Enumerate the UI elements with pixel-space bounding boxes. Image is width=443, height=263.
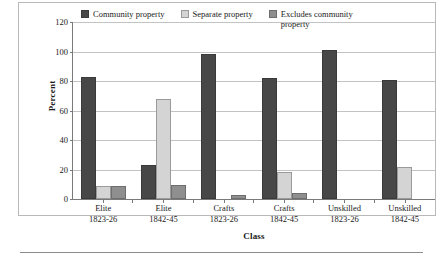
x-tick-label: Crafts1823-26 [194, 203, 254, 225]
bar[interactable] [171, 185, 186, 199]
y-tick-mark-0 [70, 199, 73, 200]
bar[interactable] [81, 77, 96, 199]
bar[interactable] [111, 186, 126, 199]
legend-item[interactable]: Separate property [181, 9, 253, 19]
bar-group [133, 22, 193, 199]
plot-area: 020406080100120 [73, 22, 435, 199]
bar-groups [73, 22, 435, 199]
bar[interactable] [156, 99, 171, 199]
x-tick-label-period: 1842-45 [254, 214, 314, 225]
x-tick-label-class: Unskilled [375, 203, 435, 214]
x-tick-label: Unskilled1842-45 [375, 203, 435, 225]
y-tick-label-80: 80 [60, 76, 69, 86]
bar-group-bars [73, 22, 133, 199]
legend-label: Separate property [193, 9, 253, 19]
bar[interactable] [322, 50, 337, 199]
bar-group-bars [133, 22, 193, 199]
x-axis-title: Class [73, 231, 435, 241]
x-tick-label-class: Crafts [194, 203, 254, 214]
x-tick-label-class: Unskilled [314, 203, 374, 214]
x-tick-label-period: 1842-45 [133, 214, 193, 225]
x-tick-label: Crafts1842-45 [254, 203, 314, 225]
legend-item[interactable]: Community property [81, 9, 165, 19]
bar-group [375, 22, 435, 199]
y-axis-title: Percent [47, 56, 57, 136]
y-tick-label-0: 0 [64, 194, 68, 204]
bar-group-bars [314, 22, 374, 199]
bar[interactable] [277, 172, 292, 199]
figure: Percent 020406080100120 Elite1823-26Elit… [0, 0, 443, 263]
legend-swatch-icon [181, 10, 189, 18]
bar-group [254, 22, 314, 199]
x-tick-label-class: Crafts [254, 203, 314, 214]
bar-group [194, 22, 254, 199]
bar[interactable] [141, 165, 156, 199]
bar-group [314, 22, 374, 199]
y-tick-label-120: 120 [55, 17, 68, 27]
x-tick-label-period: 1823-26 [194, 214, 254, 225]
legend-label: Excludes community property [281, 9, 359, 29]
bar-group-bars [375, 22, 435, 199]
bar[interactable] [96, 186, 111, 199]
chart-frame: Percent 020406080100120 Elite1823-26Elit… [18, 2, 436, 216]
y-tick-label-40: 40 [60, 135, 69, 145]
bottom-divider-rule [20, 252, 423, 253]
y-tick-label-100: 100 [55, 47, 68, 57]
legend-swatch-icon [269, 10, 277, 18]
bar[interactable] [262, 78, 277, 199]
chart-legend: Community propertySeparate propertyExclu… [81, 9, 359, 29]
bar[interactable] [292, 193, 307, 199]
bar[interactable] [201, 54, 216, 199]
bar[interactable] [231, 195, 246, 199]
legend-label: Community property [93, 9, 165, 19]
legend-swatch-icon [81, 10, 89, 18]
bar-group-bars [254, 22, 314, 199]
bar-group [73, 22, 133, 199]
x-tick-label-class: Elite [133, 203, 193, 214]
x-tick-labels: Elite1823-26Elite1842-45Crafts1823-26Cra… [73, 203, 435, 225]
x-tick-label: Elite1842-45 [133, 203, 193, 225]
bar[interactable] [397, 167, 412, 199]
x-tick-label-period: 1842-45 [375, 214, 435, 225]
x-tick-label: Unskilled1823-26 [314, 203, 374, 225]
x-tick-label-class: Elite [73, 203, 133, 214]
bar-group-bars [194, 22, 254, 199]
x-tick-label-period: 1823-26 [73, 214, 133, 225]
plot-inner: 020406080100120 [73, 22, 435, 199]
legend-item[interactable]: Excludes community property [269, 9, 359, 29]
x-tick-label: Elite1823-26 [73, 203, 133, 225]
y-tick-label-60: 60 [60, 106, 69, 116]
gridline-0 [73, 199, 435, 200]
bar[interactable] [382, 80, 397, 199]
x-tick-label-period: 1823-26 [314, 214, 374, 225]
y-tick-label-20: 20 [60, 165, 69, 175]
